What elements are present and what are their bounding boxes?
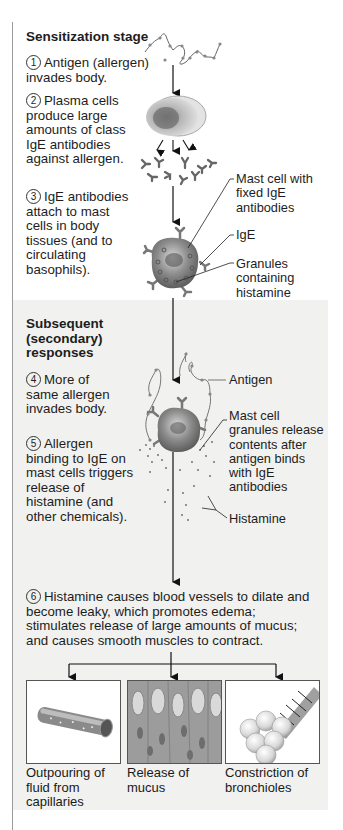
histamine-particles (139, 441, 215, 521)
capillary-icon (27, 681, 120, 763)
caption-capillaries: Outpouring of fluid from capillaries (26, 766, 121, 810)
bronchiole-icon (226, 681, 319, 763)
antibody-release-arrows (157, 140, 189, 151)
caption-mucus: Release of mucus (127, 766, 217, 795)
branch-arrows (69, 652, 276, 677)
caption-bronchioles: Constriction of bronchioles (225, 766, 325, 795)
mucus-panel (127, 680, 222, 764)
antigen-icon (145, 34, 222, 64)
mucus-cells-icon (128, 681, 221, 763)
mast-cell-icon (144, 228, 209, 296)
capillary-panel (26, 680, 121, 764)
degranulating-mast-cell-icon (148, 398, 205, 452)
ige-antibodies-icon (142, 158, 216, 184)
bronchiole-panel (225, 680, 320, 764)
plasma-cell-icon (146, 96, 206, 136)
